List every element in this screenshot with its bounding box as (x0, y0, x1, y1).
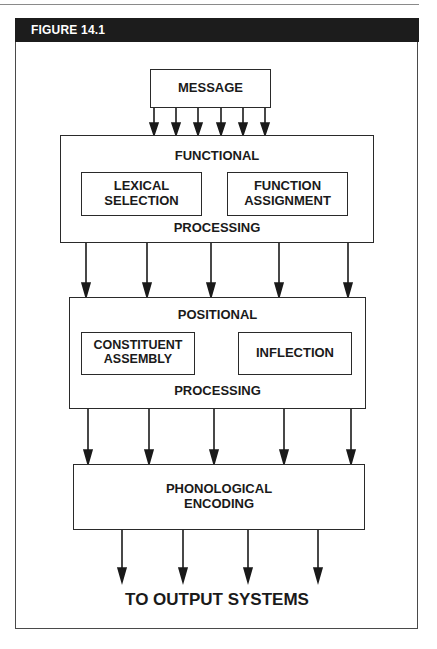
constituent-assembly-line2: ASSEMBLY (82, 352, 194, 366)
lexical-selection-line2: SELECTION (82, 194, 201, 209)
functional-footer: PROCESSING (61, 221, 373, 236)
output-label: TO OUTPUT SYSTEMS (60, 590, 374, 610)
function-assignment-box: FUNCTION ASSIGNMENT (227, 172, 348, 216)
message-box: MESSAGE (150, 69, 271, 108)
arrows-positional-to-phonological (84, 408, 355, 464)
message-label: MESSAGE (151, 81, 270, 96)
positional-title: POSITIONAL (70, 308, 365, 323)
functional-title: FUNCTIONAL (61, 149, 373, 164)
arrows-message-to-functional (150, 107, 269, 135)
lexical-selection-box: LEXICAL SELECTION (81, 172, 202, 216)
lexical-selection-line1: LEXICAL (82, 179, 201, 194)
phonological-encoding-box: PHONOLOGICAL ENCODING (73, 464, 365, 530)
arrows-phonological-to-output (118, 529, 322, 582)
positional-footer: PROCESSING (70, 384, 365, 399)
phonological-line2: ENCODING (74, 497, 364, 512)
phonological-line1: PHONOLOGICAL (74, 482, 364, 497)
inflection-label: INFLECTION (239, 346, 351, 361)
inflection-box: INFLECTION (238, 332, 352, 375)
function-assignment-line1: FUNCTION (228, 179, 347, 194)
function-assignment-line2: ASSIGNMENT (228, 194, 347, 209)
constituent-assembly-line1: CONSTITUENT (82, 338, 194, 352)
arrows-functional-to-positional (82, 242, 352, 297)
constituent-assembly-box: CONSTITUENT ASSEMBLY (81, 332, 195, 375)
